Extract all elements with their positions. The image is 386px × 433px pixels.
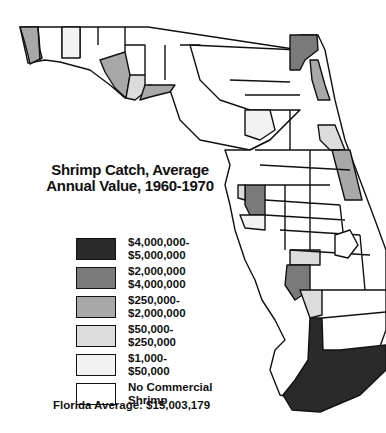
legend: $4,000,000- $5,000,000 $2,000,000 $4,000… xyxy=(76,236,212,410)
legend-item: $1,000- $50,000 xyxy=(76,352,212,381)
county-franklin xyxy=(140,85,175,100)
legend-item: $250,000- $2,000,000 xyxy=(76,294,212,323)
title-line-2: Annual Value, 1960-1970 xyxy=(40,178,220,194)
legend-item: $4,000,000- $5,000,000 xyxy=(76,236,212,265)
legend-label: $1,000- $50,000 xyxy=(128,352,170,377)
legend-label: $250,000- $2,000,000 xyxy=(128,294,186,319)
county-hillsborough xyxy=(245,185,265,215)
legend-label: $4,000,000- $5,000,000 xyxy=(128,236,189,261)
legend-label: $2,000,000 $4,000,000 xyxy=(128,265,186,290)
legend-item: $2,000,000 $4,000,000 xyxy=(76,265,212,294)
florida-average: Florida Average: $15,003,179 xyxy=(53,399,210,411)
legend-swatch xyxy=(76,238,116,260)
legend-label: $50,000- $250,000 xyxy=(128,323,176,348)
legend-swatch xyxy=(76,267,116,289)
peninsula xyxy=(190,35,386,400)
legend-swatch xyxy=(76,325,116,347)
legend-swatch xyxy=(76,354,116,376)
county-pasco xyxy=(238,185,245,200)
county-walton xyxy=(62,27,80,58)
map-title: Shrimp Catch, Average Annual Value, 1960… xyxy=(40,162,220,194)
title-line-1: Shrimp Catch, Average xyxy=(40,162,220,178)
legend-swatch xyxy=(76,296,116,318)
legend-item: $50,000- $250,000 xyxy=(76,323,212,352)
